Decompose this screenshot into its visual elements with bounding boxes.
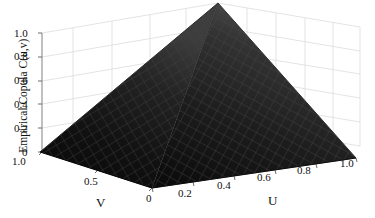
surface-plot-svg [0, 0, 375, 218]
z-tick-label-0.4: 0.4 [14, 99, 28, 110]
v-axis-title: V [96, 196, 105, 209]
z-axis-ticks [38, 33, 42, 152]
v-tick-label-0.5: 0.5 [84, 176, 98, 187]
z-tick-label-1.0: 1.0 [14, 28, 28, 39]
z-tick-label-0.8: 0.8 [14, 51, 28, 62]
z-axis-title: Empirical Copula C(u,v) [18, 26, 30, 166]
u-tick-label-0.4: 0.4 [217, 180, 231, 191]
z-tick-label-0.2: 0.2 [14, 123, 28, 134]
u-tick-label-0.6: 0.6 [257, 172, 271, 183]
u-tick-label-1.0: 1.0 [340, 158, 354, 169]
v-tick-label-0: 0 [146, 193, 152, 204]
figure-canvas: Empirical Copula C(u,v) 1.0 0.8 0.6 0.4 … [0, 0, 375, 218]
u-axis-title: U [268, 194, 277, 207]
u-tick-label-0.2: 0.2 [178, 188, 192, 199]
z-tick-label-0.6: 0.6 [14, 75, 28, 86]
u-tick-label-0.8: 0.8 [297, 165, 311, 176]
v-tick-label-1.0: 1.0 [12, 156, 26, 167]
